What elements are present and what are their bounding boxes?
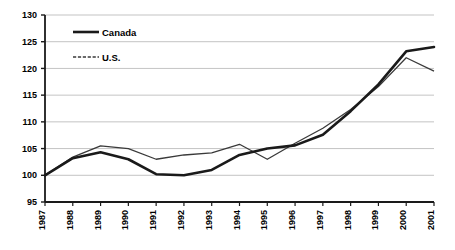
- x-axis-tick-label: 1995: [259, 210, 269, 230]
- y-axis-tick-label: 95: [27, 197, 37, 207]
- x-axis-tick-label: 1998: [343, 210, 353, 230]
- legend-label-us: U.S.: [102, 52, 120, 63]
- x-axis-tick-label: 1990: [120, 210, 130, 230]
- y-axis-tick-label: 130: [22, 10, 37, 20]
- x-axis-labels-group: 1987198819891990199119921993199419951996…: [37, 210, 436, 230]
- x-axis-tick-label: 1994: [232, 210, 242, 230]
- x-axis-tick-label: 1999: [370, 210, 380, 230]
- x-axis-tick-label: 1991: [148, 210, 158, 230]
- x-axis-tick-label: 1992: [176, 210, 186, 230]
- x-axis-tick-label: 1987: [37, 210, 47, 230]
- y-axis-tick-label: 115: [22, 90, 37, 100]
- gridlines-group: [45, 15, 434, 175]
- y-axis-tick-label: 125: [22, 37, 37, 47]
- x-axis-tick-label: 2001: [426, 210, 436, 230]
- line-chart: 95100105110115120125130 1987198819891990…: [0, 0, 455, 250]
- x-axis-tick-label: 1989: [93, 210, 103, 230]
- y-axis-tick-label: 110: [22, 117, 37, 127]
- x-axis-tick-label: 1997: [315, 210, 325, 230]
- chart-canvas: 95100105110115120125130 1987198819891990…: [0, 0, 455, 250]
- legend-label-canada: Canada: [102, 27, 137, 38]
- y-axis-tick-label: 100: [22, 170, 37, 180]
- legend: Canada U.S.: [73, 27, 137, 63]
- series-line-canada: [45, 47, 434, 175]
- y-axis-labels-group: 95100105110115120125130: [22, 10, 37, 207]
- y-axis-tick-label: 120: [22, 64, 37, 74]
- series-line-us: [45, 58, 434, 176]
- x-axis-tick-label: 2000: [398, 210, 408, 230]
- x-axis-tick-label: 1988: [65, 210, 75, 230]
- x-axis-tick-label: 1996: [287, 210, 297, 230]
- x-axis-tick-label: 1993: [204, 210, 214, 230]
- y-axis-tick-label: 105: [22, 144, 37, 154]
